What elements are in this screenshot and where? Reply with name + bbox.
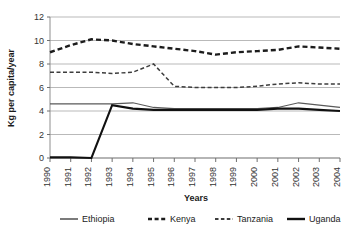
x-tick-label: 1991 [63, 167, 73, 187]
legend-label-ethiopia: Ethiopia [82, 214, 115, 224]
x-tick-label: 1997 [187, 167, 197, 187]
x-tick-labels: 1990199119921993199419951996199719981999… [42, 167, 342, 187]
x-tick-label: 1993 [104, 167, 114, 187]
x-tick-label: 2003 [311, 167, 321, 187]
x-tick-label: 2002 [291, 167, 301, 187]
x-tick-label: 1992 [83, 167, 93, 187]
x-tick-label: 1994 [125, 167, 135, 187]
x-tick-label: 1995 [146, 167, 156, 187]
legend: EthiopiaKenyaTanzaniaUganda [60, 214, 341, 224]
line-chart: 024681012 199019911992199319941995199619… [0, 0, 354, 240]
x-tick-label: 1998 [208, 167, 218, 187]
y-tick-labels: 024681012 [34, 12, 44, 163]
y-tick-label: 6 [39, 83, 44, 93]
x-tick-label: 2000 [249, 167, 259, 187]
legend-label-tanzania: Tanzania [237, 214, 273, 224]
x-tick-marks [50, 158, 340, 162]
legend-label-kenya: Kenya [170, 214, 196, 224]
x-tick-label: 1999 [228, 167, 238, 187]
x-tick-label: 1990 [42, 167, 52, 187]
x-tick-label: 2004 [332, 167, 342, 187]
chart-canvas: 024681012 199019911992199319941995199619… [0, 0, 354, 240]
y-tick-label: 0 [39, 153, 44, 163]
x-tick-label: 2001 [270, 167, 280, 187]
x-axis-title: Years [184, 193, 208, 203]
y-tick-label: 12 [34, 12, 44, 22]
y-tick-label: 4 [39, 106, 44, 116]
y-axis-title: Kg per capita/year [6, 48, 16, 127]
x-tick-label: 1996 [166, 167, 176, 187]
legend-label-uganda: Uganda [309, 214, 341, 224]
y-tick-label: 10 [34, 36, 44, 46]
y-tick-label: 8 [39, 59, 44, 69]
y-tick-label: 2 [39, 130, 44, 140]
